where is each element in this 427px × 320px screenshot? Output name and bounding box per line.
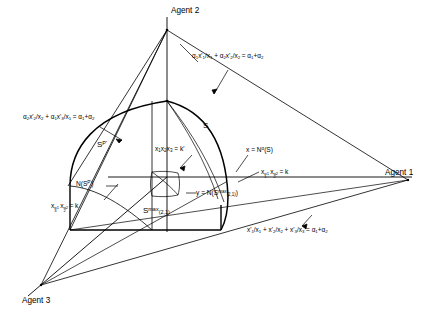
eq-tr-sub8: 2: [261, 55, 263, 60]
equation-upper-left: α2x'2/x2 + α1x'3/x1 = α1+α2: [23, 114, 94, 122]
eq-cdl-equals: = k: [68, 202, 79, 209]
vertex-lowerleft-dot: [40, 284, 42, 286]
point-label-nash-pareto: N(SP'): [76, 181, 93, 188]
eq-tr-plus1: +: [212, 52, 219, 59]
axis-label-agent-1: Agent 1: [385, 169, 413, 178]
set-label-S-pareto: SP': [97, 141, 107, 149]
eq-cdl-sub1: 3: [54, 209, 56, 213]
equation-product-level-set: x1x2x3 = k': [155, 146, 184, 154]
equation-cobb-douglas-right: xα11 xα22 = k: [261, 169, 288, 176]
eq-br-plus2: +: [283, 226, 290, 233]
cell-edge-bottom: [152, 195, 178, 197]
smax-sup: max: [148, 206, 158, 212]
vertex-apex-dot: [166, 29, 169, 32]
eq-br-equals: =: [304, 226, 311, 233]
eq-cdr-sub2: 2: [274, 175, 276, 179]
equation-top-right: α1x'1/x1 + α2x'2/x2 = α1+α2: [192, 53, 263, 61]
set-sp-sup: P': [102, 140, 107, 146]
set-label-S: S: [203, 122, 208, 130]
eq-ul-plus1: +: [43, 113, 50, 120]
eq-ul-sub8: 2: [92, 116, 94, 121]
outer-simplex-triangle: [41, 30, 408, 285]
axis-label-agent-2: Agent 2: [171, 7, 199, 16]
leader-top-right-arrow: [212, 89, 217, 94]
sp-curve: [70, 186, 152, 230]
diagram-canvas: Agent 2 Agent 1 Agent 3 α1x'1/x1 + α2x'2…: [0, 0, 427, 320]
ray-base-to-right-apex: [70, 180, 408, 230]
eq-pr-equals: = k': [172, 145, 184, 152]
cell-edge-top: [152, 171, 178, 173]
small-contour-cell: [151, 171, 180, 196]
leader-product: [180, 155, 192, 168]
annotation-leaders: [100, 44, 312, 229]
eq-br-plus1: +: [261, 226, 268, 233]
axis-agent3-line: [28, 177, 167, 296]
nsp-close: ): [91, 180, 93, 187]
equation-bottom-right: x'1/x1 + x'2/x2 + x'3/x3 = α1+α2: [247, 227, 328, 235]
vertex-simplex-top-dot: [166, 100, 169, 103]
pty-open: y = N(S: [196, 189, 218, 196]
vertex-right-dot: [407, 179, 409, 181]
leader-xpoint: [236, 155, 248, 172]
cell-edge-right: [178, 173, 180, 195]
vertex-markers: [40, 29, 409, 286]
inner-edge-apex-to-lower: [70, 30, 167, 230]
cell-diag-a: [152, 172, 178, 195]
point-label-y-nash-smax: y = N(Smax(2,1)): [196, 190, 238, 198]
eq-br-sub8: 2: [325, 229, 327, 234]
ptx-open: x = N: [246, 146, 262, 153]
point-label-x-nash-alpha: x = Nα(S): [246, 147, 273, 154]
set-label-smax: Smax(2,1): [143, 207, 170, 216]
leader-cd-left: [104, 184, 118, 200]
nsp-open: N(S: [76, 180, 87, 187]
eq-cdl-sub2: 2: [64, 209, 66, 213]
equation-cobb-douglas-left: xα13 xα22 = k: [51, 203, 78, 210]
diagram-vector-layer: [0, 0, 427, 320]
axis-label-agent-3: Agent 3: [22, 297, 50, 306]
eq-cdr-equals: = k: [278, 168, 289, 175]
smax-sub: (2,1): [159, 209, 170, 215]
pty-sub: (2,1): [227, 192, 236, 197]
pty-close: ): [236, 189, 238, 196]
pareto-curve-bottom-bold: [221, 196, 228, 230]
leader-upper-left-arrow: [116, 139, 122, 143]
pty-sup: max: [218, 189, 226, 194]
eq-cdr-sub1: 1: [264, 175, 266, 179]
ptx-close: (S): [264, 146, 273, 153]
